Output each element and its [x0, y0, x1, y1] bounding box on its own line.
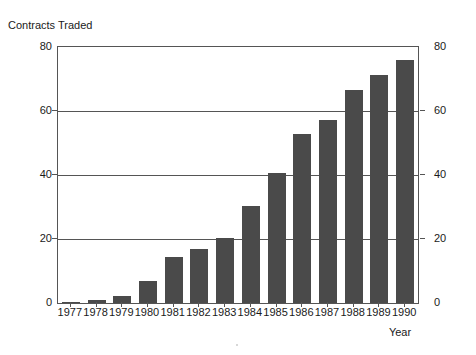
y-axis-right: 020406080: [420, 46, 472, 303]
bar-rect: [345, 90, 363, 303]
y-axis-left-tickmark: [52, 174, 57, 175]
y-axis-left-tickmark: [52, 110, 57, 111]
bar-rect: [370, 75, 388, 303]
bar-rect: [268, 173, 286, 303]
chart-page: Contracts Traded 020406080 020406080 197…: [0, 0, 476, 355]
y-axis-right-tickmark: [420, 110, 425, 111]
bar-rect: [242, 206, 260, 303]
bar-rect: [139, 281, 157, 303]
y-axis-right-tick-label: 0: [434, 296, 474, 308]
y-axis-right-tickmark: [420, 174, 425, 175]
y-axis-left-tickmark: [52, 238, 57, 239]
y-axis-left-tick-label: 20: [6, 232, 52, 244]
bar-rect: [165, 257, 183, 303]
bar-rect: [216, 238, 234, 303]
bar-rect: [190, 249, 208, 303]
y-axis-left-tick-label: 40: [6, 168, 52, 180]
y-axis-right-tick-label: 80: [434, 40, 474, 52]
bar-rect: [396, 60, 414, 303]
bar-rect: [319, 120, 337, 303]
plot-area: [57, 46, 419, 304]
bar-series: [58, 47, 418, 303]
y-axis-left-tick-label: 80: [6, 40, 52, 52]
stray-speck: [236, 344, 238, 346]
y-axis-left-tick-label: 0: [6, 296, 52, 308]
y-axis-left: 020406080: [0, 46, 52, 303]
y-axis-right-tick-label: 40: [434, 168, 474, 180]
y-axis-right-tick-label: 60: [434, 104, 474, 116]
x-axis-tick-label: 1990: [387, 306, 421, 319]
y-axis-left-tick-label: 60: [6, 104, 52, 116]
x-axis-labels: 1977197819791980198119821983198419851986…: [57, 306, 417, 322]
y-axis-right-tick-label: 20: [434, 232, 474, 244]
bar-rect: [293, 134, 311, 303]
y-axis-right-tickmark: [420, 238, 425, 239]
chart-title: Contracts Traded: [8, 19, 92, 31]
x-axis-title: Year: [330, 326, 470, 339]
